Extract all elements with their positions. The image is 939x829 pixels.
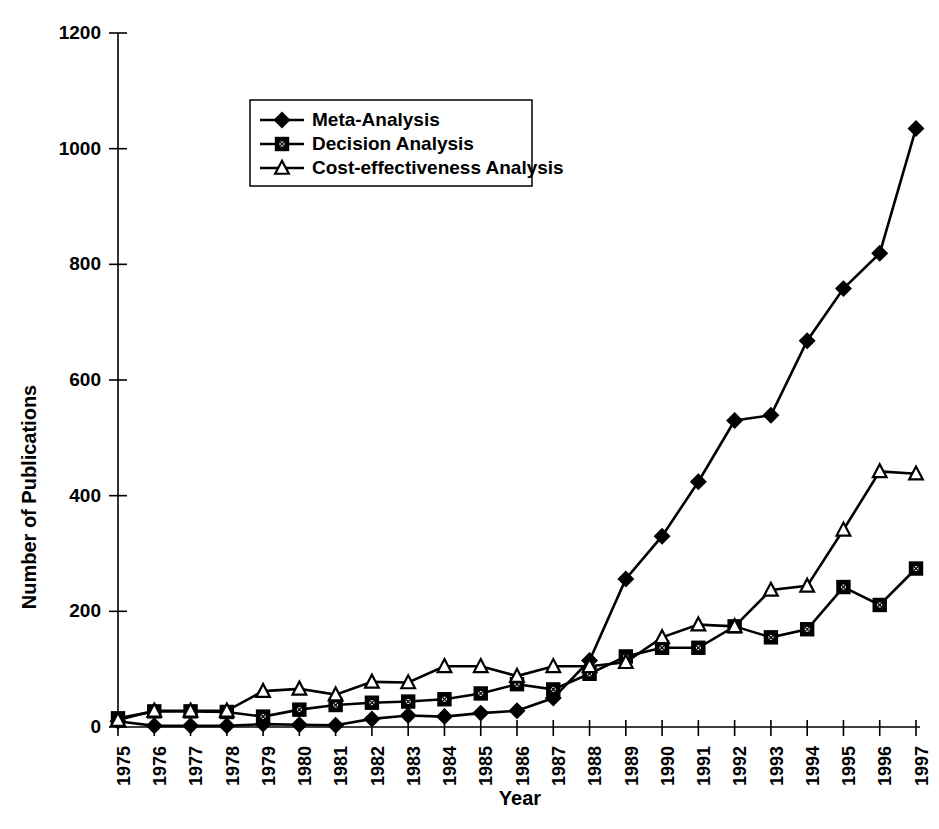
series-0-marker — [473, 706, 488, 721]
x-axis-tick-label: 1994 — [803, 746, 823, 786]
series-0-marker — [800, 333, 815, 348]
legend-label-1: Decision Analysis — [312, 133, 474, 154]
x-axis-tick-label: 1984 — [440, 746, 460, 786]
x-axis-tick-label: 1978 — [223, 746, 243, 786]
legend-label-0: Meta-Analysis — [312, 109, 440, 130]
y-axis-tick-label: 0 — [90, 716, 101, 737]
y-axis-tick-label: 600 — [69, 369, 101, 390]
x-axis-title: Year — [499, 787, 541, 809]
x-axis-tick-label: 1979 — [259, 746, 279, 786]
y-axis-tick-label: 1200 — [59, 22, 101, 43]
series-0-marker — [437, 709, 452, 724]
series-0-marker — [147, 718, 162, 733]
x-axis-tick-label: 1985 — [476, 746, 496, 786]
x-axis-tick-label: 1986 — [513, 746, 533, 786]
x-axis-tick-label: 1983 — [404, 746, 424, 786]
y-axis-tick-label: 1000 — [59, 138, 101, 159]
x-axis-tick-label: 1990 — [658, 746, 678, 786]
x-axis-tick-label: 1989 — [622, 746, 642, 786]
series-0-marker — [364, 711, 379, 726]
series-0-marker — [727, 413, 742, 428]
y-axis-title: Number of Publications — [18, 385, 40, 609]
series-0-marker — [183, 718, 198, 733]
series-line-1 — [118, 569, 916, 719]
series-0-marker — [510, 703, 525, 718]
series-0-marker — [909, 121, 924, 136]
publications-line-chart: 0200400600800100012001975197619771978197… — [0, 0, 939, 829]
x-axis-tick-label: 1995 — [839, 746, 859, 786]
chart-canvas: 0200400600800100012001975197619771978197… — [0, 0, 939, 829]
x-axis-tick-label: 1993 — [767, 746, 787, 786]
x-axis-tick-label: 1975 — [114, 746, 134, 786]
series-line-0 — [118, 128, 916, 725]
series-0-marker — [219, 718, 234, 733]
x-axis-tick-label: 1980 — [295, 746, 315, 786]
x-axis-tick-label: 1976 — [150, 746, 170, 786]
legend-label-2: Cost-effectiveness Analysis — [312, 157, 564, 178]
x-axis-tick-label: 1987 — [549, 746, 569, 786]
y-axis-tick-label: 800 — [69, 253, 101, 274]
y-axis-tick-label: 200 — [69, 600, 101, 621]
x-axis-tick-label: 1996 — [875, 746, 895, 786]
x-axis-tick-label: 1977 — [186, 746, 206, 786]
x-axis-tick-label: 1991 — [694, 746, 714, 786]
series-0-marker — [401, 708, 416, 723]
x-axis-tick-label: 1982 — [368, 746, 388, 786]
x-axis-tick-label: 1988 — [585, 746, 605, 786]
y-axis-tick-label: 400 — [69, 485, 101, 506]
series-0-marker — [763, 408, 778, 423]
series-0-marker — [328, 718, 343, 733]
x-axis-tick-label: 1992 — [730, 746, 750, 786]
series-0-marker — [691, 474, 706, 489]
x-axis-tick-label: 1997 — [912, 746, 932, 786]
series-0-marker — [292, 717, 307, 732]
x-axis-tick-label: 1981 — [331, 746, 351, 786]
